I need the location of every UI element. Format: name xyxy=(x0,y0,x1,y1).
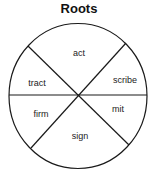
roots-wheel-diagram: act tract scribe firm mit sign xyxy=(0,0,149,171)
segment-label-act: act xyxy=(73,48,86,58)
segment-label-mit: mit xyxy=(112,104,124,114)
segment-label-sign: sign xyxy=(72,131,89,141)
segment-label-tract: tract xyxy=(28,78,46,88)
segment-label-firm: firm xyxy=(34,109,49,119)
segment-label-scribe: scribe xyxy=(113,75,137,85)
